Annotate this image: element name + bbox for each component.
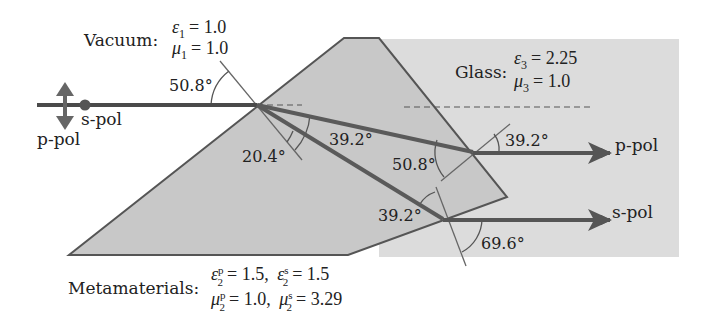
svg-text:μ1= 1.0: μ1= 1.0 bbox=[171, 38, 228, 62]
metamaterial-refraction-diagram: s-pol p-pol p-pol s-pol 50.8° 20.4° 39.2… bbox=[0, 0, 708, 335]
vacuum-parameters: Vacuum: ε1= 1.0 μ1= 1.0 bbox=[83, 17, 228, 62]
metamaterial-label: Metamaterials: bbox=[68, 278, 199, 298]
incident-p-pol-label: p-pol bbox=[37, 129, 80, 149]
angle-label-p-exit-out: 39.2° bbox=[505, 131, 549, 150]
vacuum-label: Vacuum: bbox=[83, 30, 158, 50]
angle-label-incidence: 50.8° bbox=[169, 76, 213, 95]
glass-label: Glass: bbox=[455, 62, 507, 82]
svg-text:εp2= 1.5, εs2= 1.5: εp2= 1.5, εs2= 1.5 bbox=[211, 264, 329, 288]
incident-s-pol-label: s-pol bbox=[81, 109, 122, 129]
svg-text:μp2= 1.0, μs2= 3.29: μp2= 1.0, μs2= 3.29 bbox=[210, 289, 342, 313]
angle-label-s-exit-out: 69.6° bbox=[481, 234, 525, 253]
angle-label-p-inner: 39.2° bbox=[329, 130, 373, 149]
angle-arc-incidence bbox=[211, 71, 229, 105]
metamaterial-parameters: Metamaterials: εp2= 1.5, εs2= 1.5 μp2= 1… bbox=[68, 264, 342, 313]
angle-label-refraction-split: 20.4° bbox=[242, 147, 286, 166]
angle-label-s-exit-inner: 39.2° bbox=[378, 206, 422, 225]
output-s-pol-label: s-pol bbox=[612, 202, 653, 222]
angle-label-p-exit-inner: 50.8° bbox=[392, 155, 436, 174]
output-p-pol-label: p-pol bbox=[615, 135, 658, 155]
